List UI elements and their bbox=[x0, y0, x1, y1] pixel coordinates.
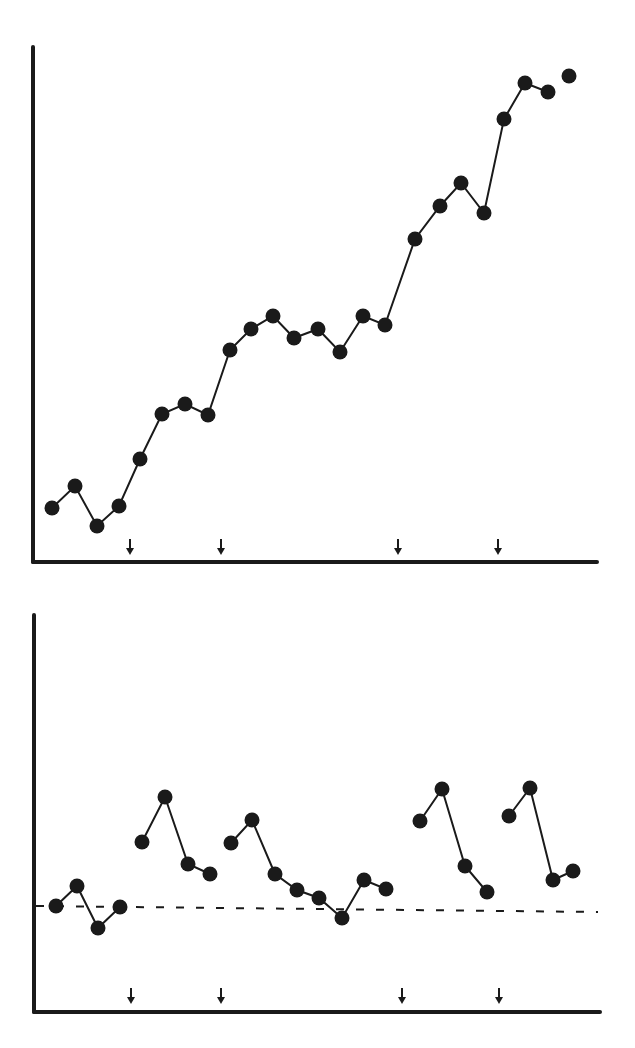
data-point bbox=[477, 206, 492, 221]
segment-1-line bbox=[56, 886, 120, 928]
data-point bbox=[49, 899, 64, 914]
top-chart-line bbox=[52, 83, 548, 526]
two-panel-line-chart bbox=[0, 0, 635, 1048]
data-point bbox=[133, 452, 148, 467]
segment-3-line bbox=[231, 820, 386, 918]
data-point bbox=[290, 883, 305, 898]
data-point bbox=[311, 322, 326, 337]
data-point bbox=[112, 499, 127, 514]
data-point bbox=[178, 397, 193, 412]
data-point bbox=[181, 857, 196, 872]
data-point bbox=[113, 900, 128, 915]
data-point bbox=[268, 867, 283, 882]
data-point bbox=[135, 835, 150, 850]
data-point bbox=[379, 882, 394, 897]
data-point bbox=[433, 199, 448, 214]
data-point bbox=[523, 781, 538, 796]
data-point bbox=[480, 885, 495, 900]
data-point bbox=[266, 309, 281, 324]
data-point bbox=[223, 343, 238, 358]
data-point bbox=[357, 873, 372, 888]
data-point bbox=[497, 112, 512, 127]
bottom-chart-intervention-arrows bbox=[127, 988, 503, 1004]
down-arrow-icon bbox=[217, 988, 225, 1004]
data-point bbox=[518, 76, 533, 91]
data-point bbox=[90, 519, 105, 534]
data-point bbox=[378, 318, 393, 333]
data-point bbox=[435, 782, 450, 797]
data-point bbox=[245, 813, 260, 828]
data-point bbox=[333, 345, 348, 360]
data-point bbox=[454, 176, 469, 191]
segment-5-line bbox=[509, 788, 573, 880]
bottom-chart-segment-lines bbox=[56, 788, 573, 928]
data-point bbox=[91, 921, 106, 936]
top-chart-intervention-arrows bbox=[126, 539, 502, 555]
data-point bbox=[408, 232, 423, 247]
data-point bbox=[541, 85, 556, 100]
segment-2-line bbox=[142, 797, 210, 874]
data-point bbox=[335, 911, 350, 926]
down-arrow-icon bbox=[126, 539, 134, 555]
data-point bbox=[244, 322, 259, 337]
top-series-line bbox=[52, 83, 548, 526]
data-point bbox=[566, 864, 581, 879]
down-arrow-icon bbox=[217, 539, 225, 555]
down-arrow-icon bbox=[398, 988, 406, 1004]
segment-4-line bbox=[420, 789, 487, 892]
data-point bbox=[312, 891, 327, 906]
data-point bbox=[45, 501, 60, 516]
top-chart-axes bbox=[33, 47, 597, 562]
down-arrow-icon bbox=[127, 988, 135, 1004]
bottom-chart-segmented bbox=[34, 615, 600, 1012]
data-point bbox=[224, 836, 239, 851]
data-point bbox=[546, 873, 561, 888]
data-point bbox=[68, 479, 83, 494]
data-point bbox=[155, 407, 170, 422]
data-point bbox=[158, 790, 173, 805]
data-point bbox=[356, 309, 371, 324]
data-point bbox=[201, 408, 216, 423]
data-point bbox=[413, 814, 428, 829]
bottom-chart-data-points bbox=[49, 781, 581, 936]
down-arrow-icon bbox=[494, 539, 502, 555]
data-point bbox=[562, 69, 577, 84]
top-chart-cumulative bbox=[33, 47, 597, 562]
data-point bbox=[203, 867, 218, 882]
top-chart-data-points bbox=[45, 69, 577, 534]
down-arrow-icon bbox=[394, 539, 402, 555]
data-point bbox=[502, 809, 517, 824]
data-point bbox=[70, 879, 85, 894]
data-point bbox=[287, 331, 302, 346]
data-point bbox=[458, 859, 473, 874]
down-arrow-icon bbox=[495, 988, 503, 1004]
